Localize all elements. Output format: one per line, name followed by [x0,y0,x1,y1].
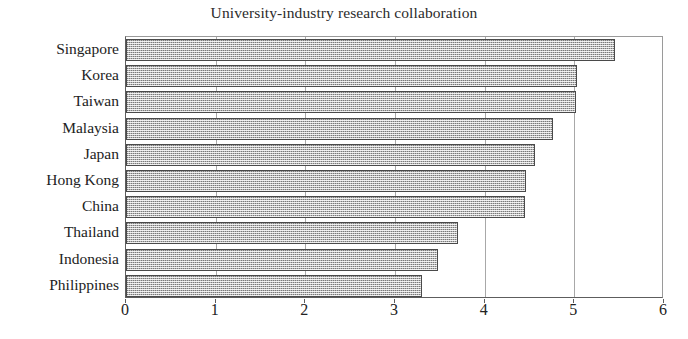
bar-row [126,142,662,168]
bar-row [126,247,662,273]
y-axis-label-indonesia: Indonesia [59,246,119,272]
bar [126,249,438,271]
y-axis-label-singapore: Singapore [56,36,119,62]
x-axis-label-5: 5 [569,301,577,319]
plot-area [125,36,663,298]
bar [126,196,525,218]
bar [126,275,422,297]
y-axis-category-labels: SingaporeKoreaTaiwanMalaysiaJapanHong Ko… [0,36,125,298]
y-axis-label-hong-kong: Hong Kong [46,167,119,193]
y-axis-label-malaysia: Malaysia [62,115,119,141]
bar-row [126,168,662,194]
y-axis-label-thailand: Thailand [64,219,119,245]
chart-title: University-industry research collaborati… [0,4,688,22]
bar-row [126,116,662,142]
bar [126,170,526,192]
bar-row [126,89,662,115]
bar-chart-figure: University-industry research collaborati… [0,0,688,339]
x-axis-tick-labels: 0123456 [125,299,663,333]
x-axis-label-0: 0 [121,301,129,319]
bar-row [126,37,662,63]
y-axis-label-china: China [82,193,119,219]
x-axis-label-3: 3 [390,301,398,319]
y-axis-label-korea: Korea [81,62,119,88]
y-axis-label-japan: Japan [84,141,119,167]
bars-layer [126,37,662,297]
bar-row [126,220,662,246]
bar [126,39,615,61]
bar [126,118,553,140]
bar [126,222,458,244]
bar [126,91,576,113]
x-axis-label-4: 4 [480,301,488,319]
bar [126,65,577,87]
bar-row [126,273,662,299]
x-axis-label-2: 2 [300,301,308,319]
x-axis-label-1: 1 [211,301,219,319]
x-axis-label-6: 6 [659,301,667,319]
y-axis-label-taiwan: Taiwan [74,88,119,114]
bar [126,144,535,166]
y-axis-label-philippines: Philippines [49,272,119,298]
bar-row [126,194,662,220]
bar-row [126,63,662,89]
